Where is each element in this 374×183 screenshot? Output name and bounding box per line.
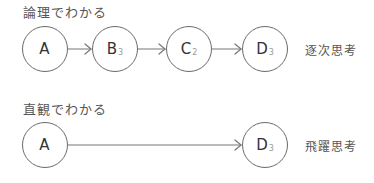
arrow-a-to-d-leap	[68, 140, 241, 150]
arrow-a-to-b	[68, 44, 91, 54]
arrows-layer	[0, 0, 374, 183]
arrow-c-to-d	[212, 44, 241, 54]
arrow-b-to-c	[138, 44, 165, 54]
